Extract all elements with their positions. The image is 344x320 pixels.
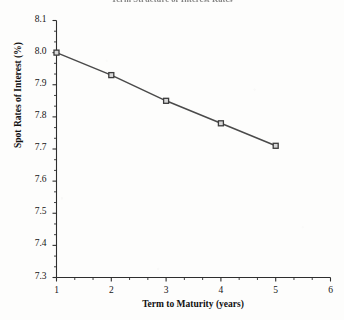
y-axis-tick-label: 7.8 <box>13 110 47 120</box>
y-axis-tick-label: 7.7 <box>13 142 47 152</box>
x-axis-tick-label: 1 <box>47 285 67 295</box>
y-axis-tick-label: 7.4 <box>13 238 47 248</box>
x-axis-tick-label: 4 <box>211 285 231 295</box>
plot-area: 7.37.47.57.67.77.87.98.08.1123456 <box>0 0 344 320</box>
data-point-marker <box>164 98 169 103</box>
y-axis-tick-label: 8.1 <box>13 14 47 24</box>
data-point-marker <box>218 121 223 126</box>
x-axis-tick-label: 3 <box>156 285 176 295</box>
chart-svg <box>0 0 344 320</box>
data-point-marker <box>109 73 114 78</box>
data-point-marker <box>273 143 278 148</box>
x-axis-tick-label: 6 <box>321 285 341 295</box>
x-axis-tick-label: 5 <box>266 285 286 295</box>
x-axis-tick-label: 2 <box>101 285 121 295</box>
y-axis-tick-label: 7.3 <box>13 271 47 281</box>
y-axis-tick-label: 7.5 <box>13 206 47 216</box>
y-axis-tick-label: 7.9 <box>13 78 47 88</box>
y-axis-tick-label: 8.0 <box>13 46 47 56</box>
scanned-page: Term Structure of Interest Rates Spot Ra… <box>0 0 344 320</box>
y-axis-tick-label: 7.6 <box>13 174 47 184</box>
data-point-marker <box>54 50 59 55</box>
